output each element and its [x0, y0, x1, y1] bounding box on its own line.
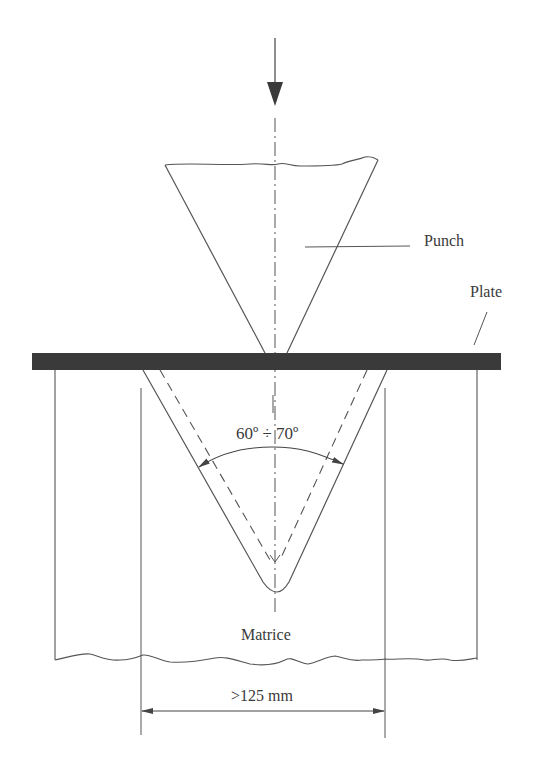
force-arrow	[267, 38, 283, 106]
angle-label: 60º ÷ 70º	[236, 424, 298, 444]
plate-label: Plate	[470, 283, 502, 301]
punch	[165, 157, 410, 353]
width-dimension-label: >125 mm	[231, 687, 293, 705]
arrow-down-icon	[267, 82, 283, 106]
punch-label: Punch	[424, 232, 464, 250]
die	[55, 370, 477, 665]
plate	[32, 353, 501, 370]
plate-leader-line	[474, 312, 487, 345]
die-label: Matrice	[241, 626, 291, 644]
punch-leader-line	[305, 246, 410, 247]
bending-diagram	[0, 0, 535, 770]
